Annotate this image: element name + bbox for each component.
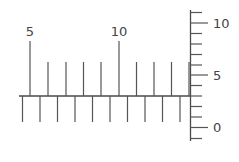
scale-label: 5 — [213, 68, 221, 83]
scale-label: 5 — [26, 24, 34, 39]
scale-label: 10 — [213, 16, 230, 31]
vertical-scale-ticks — [191, 13, 209, 139]
scale-label: 0 — [213, 120, 221, 135]
main-scale-ticks — [30, 41, 189, 96]
main-scale-labels: 510 — [26, 24, 127, 39]
vertical-scale-labels: 1050 — [213, 16, 230, 136]
vertical-ruler: 1050 — [191, 10, 230, 141]
horizontal-ruler: 510 — [19, 24, 190, 122]
vernier-scale-ticks — [23, 96, 181, 122]
scale-label: 10 — [111, 24, 128, 39]
vernier-scale-diagram: 510 1050 — [0, 0, 239, 162]
